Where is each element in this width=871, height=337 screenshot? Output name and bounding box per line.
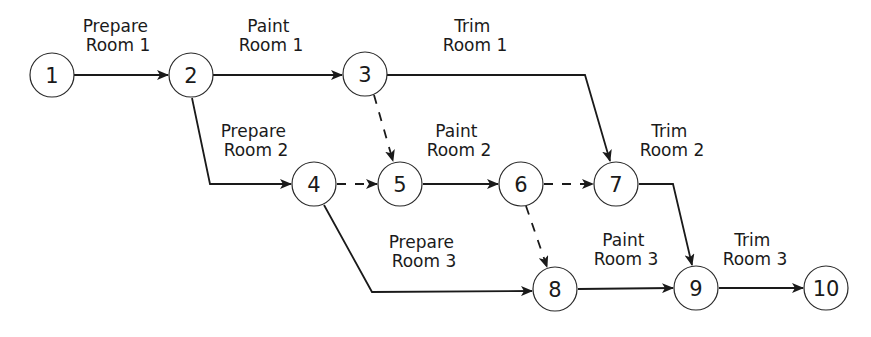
svg-text:5: 5: [393, 173, 406, 197]
svg-text:10: 10: [813, 277, 840, 301]
label-paint-room-2: Paint Room 2: [427, 121, 492, 160]
node-7: 7: [594, 162, 638, 206]
svg-text:3: 3: [358, 63, 371, 87]
svg-text:8: 8: [548, 278, 561, 302]
svg-text:6: 6: [514, 173, 527, 197]
label-trim-room-1: Trim Room 1: [443, 16, 508, 55]
node-10: 10: [804, 266, 848, 310]
edge-6-8-dummy: [526, 206, 547, 267]
node-1: 1: [30, 53, 74, 97]
node-3: 3: [343, 52, 387, 96]
node-6: 6: [499, 162, 543, 206]
svg-text:2: 2: [184, 64, 197, 88]
svg-text:7: 7: [609, 173, 622, 197]
label-paint-room-3: Paint Room 3: [594, 230, 659, 269]
edge-3-7: [387, 75, 610, 161]
edge-8-9: [578, 288, 673, 289]
label-prepare-room-3: Prepare Room 3: [389, 232, 460, 271]
svg-text:1: 1: [45, 64, 58, 88]
svg-text:9: 9: [689, 277, 702, 301]
label-prepare-room-2: Prepare Room 2: [221, 121, 292, 160]
label-prepare-room-1: Prepare Room 1: [83, 16, 154, 55]
label-paint-room-1: Paint Room 1: [239, 16, 304, 55]
node-5: 5: [378, 162, 422, 206]
node-8: 8: [533, 267, 577, 311]
label-trim-room-2: Trim Room 2: [640, 121, 705, 160]
label-trim-room-3: Trim Room 3: [723, 230, 788, 269]
svg-text:4: 4: [307, 173, 320, 197]
node-9: 9: [674, 266, 718, 310]
node-2: 2: [169, 53, 213, 97]
network-diagram: Prepare Room 1 Paint Room 1 Trim Room 1 …: [0, 0, 871, 337]
node-4: 4: [292, 162, 336, 206]
edge-3-5-dummy: [374, 95, 393, 161]
nodes: 1 2 3 4 5 6 7 8: [30, 52, 848, 311]
